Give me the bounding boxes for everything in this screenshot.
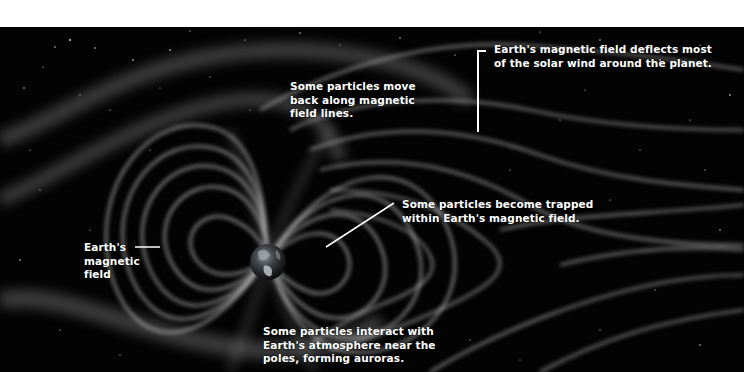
annotation-auroras: Some particles interact with Earth's atm… [263, 325, 435, 366]
trapped-leader-line [0, 0, 744, 372]
annotation-earths-magnetic-field: Earth's magnetic field [84, 241, 140, 282]
annotation-particles-trapped: Some particles become trapped within Ear… [402, 198, 593, 225]
